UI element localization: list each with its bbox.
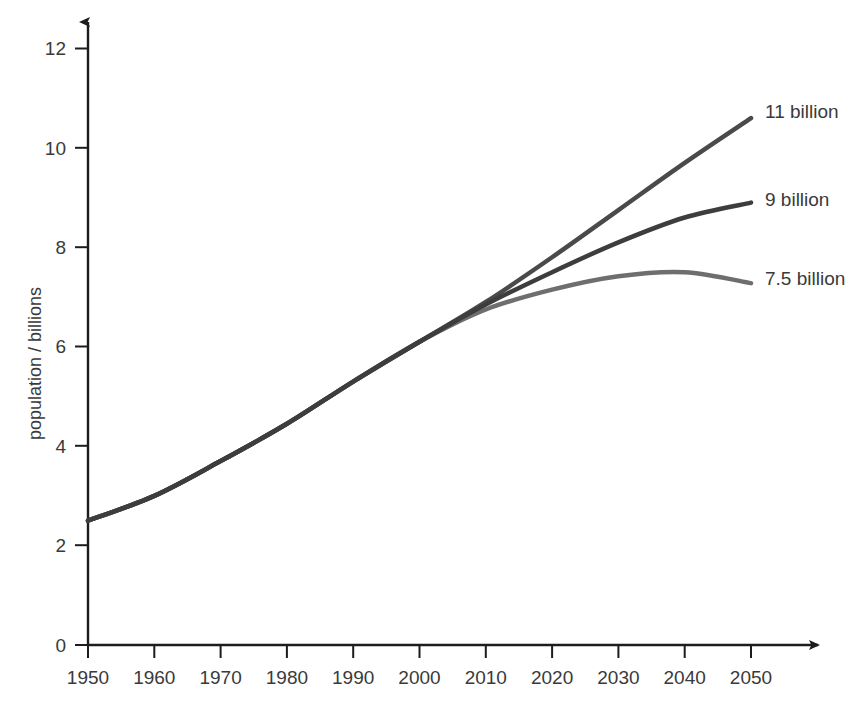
series-curve-11-billion (88, 118, 751, 521)
y-tick-label-8: 8 (55, 237, 66, 258)
series-curve-9-billion (88, 203, 751, 521)
x-tick-label-2000: 2000 (398, 667, 440, 688)
x-tick-label-1950: 1950 (67, 667, 109, 688)
chart-container: 12 10 8 6 4 2 0 population / billions 1 (0, 0, 851, 704)
series-curve-7-5-billion (88, 272, 751, 521)
x-tick-label-1970: 1970 (199, 667, 241, 688)
x-tick-label-2020: 2020 (531, 667, 573, 688)
x-axis-tick-labels: 1950 1960 1970 1980 1990 2000 2010 2020 … (67, 667, 772, 688)
y-tick-label-4: 4 (55, 436, 66, 457)
y-tick-label-2: 2 (55, 535, 66, 556)
y-tick-label-12: 12 (45, 38, 66, 59)
population-projection-chart: 12 10 8 6 4 2 0 population / billions 1 (0, 0, 851, 704)
y-axis-tick-labels: 12 10 8 6 4 2 0 (45, 38, 67, 656)
x-tick-label-1990: 1990 (332, 667, 374, 688)
y-axis-ticks (75, 49, 88, 646)
y-axis-title: population / billions (25, 287, 45, 440)
data-series-group (88, 118, 751, 521)
series-end-labels: 11 billion 9 billion 7.5 billion (765, 101, 845, 289)
x-tick-label-2010: 2010 (465, 667, 507, 688)
x-tick-label-2030: 2030 (597, 667, 639, 688)
y-tick-label-0: 0 (55, 635, 66, 656)
y-tick-label-6: 6 (55, 336, 66, 357)
x-axis-ticks (88, 645, 751, 658)
y-tick-label-10: 10 (45, 138, 66, 159)
series-label-11-billion: 11 billion (765, 101, 839, 122)
series-label-9-billion: 9 billion (765, 189, 829, 210)
series-label-7-5-billion: 7.5 billion (765, 268, 845, 289)
x-tick-label-2040: 2040 (664, 667, 706, 688)
x-tick-label-1980: 1980 (266, 667, 308, 688)
x-tick-label-1960: 1960 (133, 667, 175, 688)
x-tick-label-2050: 2050 (730, 667, 772, 688)
